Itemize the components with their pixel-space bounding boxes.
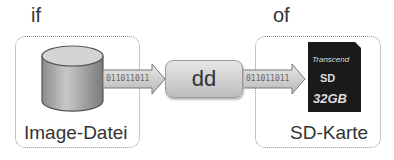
dd-tool-box: dd — [165, 60, 243, 98]
database-cylinder-icon — [42, 46, 103, 111]
svg-text:SD: SD — [320, 72, 335, 84]
target-caption: SD-Karte — [290, 122, 368, 144]
svg-text:Transcend: Transcend — [312, 55, 350, 64]
bits-in: 011011011 — [106, 74, 149, 83]
bits-out: 011011011 — [246, 74, 289, 83]
svg-text:32GB: 32GB — [313, 91, 347, 106]
source-caption: Image-Datei — [24, 122, 128, 144]
dd-label: dd — [192, 66, 216, 92]
sd-card-icon: Transcend SD 32GB — [308, 42, 361, 112]
